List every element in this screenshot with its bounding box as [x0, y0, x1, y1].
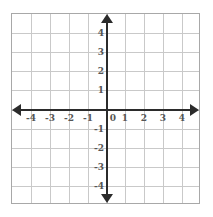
x-tick-label: -3 — [42, 113, 58, 123]
y-axis-arrow-down — [101, 194, 113, 203]
plot-area: -4-3-2-1012344321-1-2-3-4 — [11, 13, 200, 204]
y-tick-label: 4 — [88, 28, 104, 38]
x-tick-label: 2 — [136, 113, 152, 123]
y-tick-label: 3 — [88, 47, 104, 57]
x-tick-label: 4 — [174, 113, 190, 123]
x-axis-arrow-right — [190, 104, 199, 116]
y-axis — [106, 18, 108, 199]
x-tick-label: 3 — [155, 113, 171, 123]
y-tick-label: -3 — [88, 162, 104, 172]
x-tick-label: 1 — [117, 113, 133, 123]
y-tick-label: 1 — [88, 85, 104, 95]
y-tick-label: -4 — [88, 181, 104, 191]
x-tick-label: -1 — [80, 113, 96, 123]
y-axis-arrow-up — [101, 14, 113, 23]
y-tick-label: 2 — [88, 66, 104, 76]
y-tick-label: -2 — [88, 143, 104, 153]
y-tick-label: -1 — [88, 124, 104, 134]
coordinate-plane-figure: -4-3-2-1012344321-1-2-3-4 — [0, 0, 213, 217]
x-tick-label: -4 — [23, 113, 39, 123]
x-tick-label: -2 — [61, 113, 77, 123]
x-axis-arrow-left — [12, 104, 21, 116]
